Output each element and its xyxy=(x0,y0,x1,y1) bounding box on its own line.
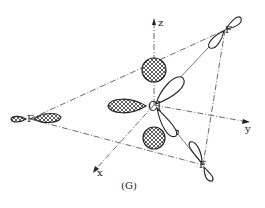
lone-pair-lobe-bottom xyxy=(143,127,165,149)
z-axis-arrow xyxy=(152,18,156,25)
x-axis-label: x xyxy=(97,168,103,178)
y-axis-label: y xyxy=(245,124,251,134)
f-atom-label-top: F xyxy=(225,25,232,35)
lone-pair-lobe-left xyxy=(108,99,146,113)
f-atom-label-bottom: F xyxy=(199,160,206,170)
lone-pair-lobe-top xyxy=(142,58,166,82)
f-atom-label-left: F xyxy=(27,114,34,124)
z-axis-label: z xyxy=(158,18,163,28)
cl-atom-label: Cl xyxy=(148,101,161,113)
figure-caption: (G) xyxy=(121,181,137,191)
